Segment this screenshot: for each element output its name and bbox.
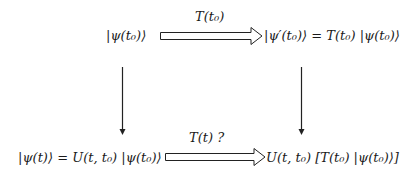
bottom-double-arrow	[166, 149, 266, 166]
node-bottom-left: |ψ(t)⟩ = U(t, t₀) |ψ(t₀)⟩	[18, 150, 162, 166]
top-double-arrow	[161, 28, 263, 45]
right-down-arrow	[299, 67, 305, 135]
left-down-arrow	[120, 67, 126, 135]
node-bottom-right: U(t, t₀) [T(t₀) |ψ(t₀)⟩]	[266, 150, 399, 166]
node-top-left: |ψ(t₀)⟩	[106, 28, 146, 44]
edge-bottom-label: T(t) ?	[189, 130, 224, 146]
edge-top-label: T(t₀)	[195, 9, 224, 25]
node-top-right: |ψ′(t₀)⟩ = T(t₀) |ψ(t₀)⟩	[264, 28, 400, 44]
